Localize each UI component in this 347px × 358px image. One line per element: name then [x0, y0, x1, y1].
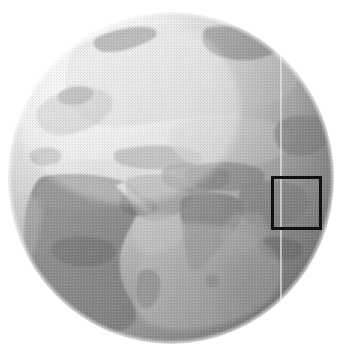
figure-root — [0, 0, 347, 358]
globe-figure — [0, 0, 347, 358]
